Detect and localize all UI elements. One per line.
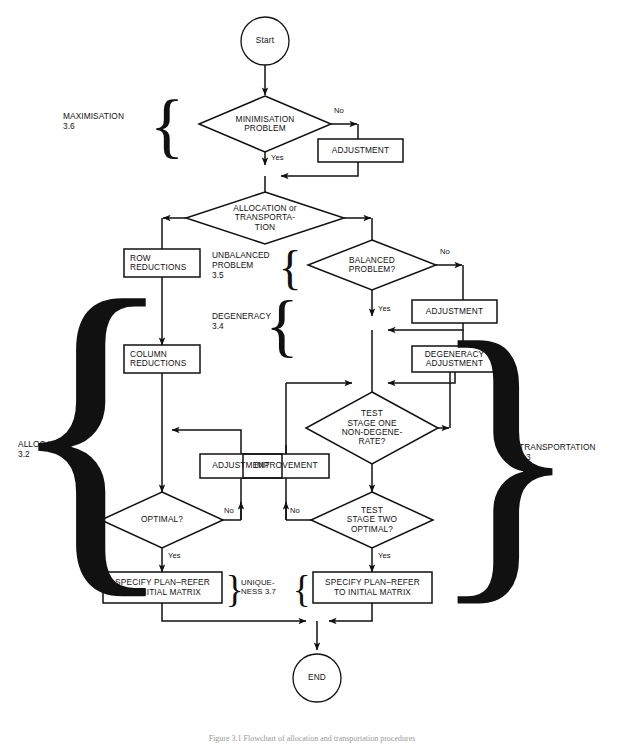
edge-label-stage-two-no: No — [290, 506, 300, 515]
flowchart-canvas: Start MINIMISATION PROBLEM ADJUSTMENT AL… — [0, 0, 624, 744]
adjustment-left-box — [200, 454, 282, 478]
section-label-uniqueness: UNIQUE- NESS 3.7 — [241, 578, 276, 596]
brace-unbalanced: { — [284, 243, 296, 293]
edge-adjustment-top-return — [281, 162, 358, 176]
adjustment-top-shape — [318, 139, 403, 162]
edge-right-plan-to-end — [329, 603, 372, 621]
alloc-or-transp-node-shape — [186, 192, 344, 244]
edge-label-stage-two-yes: Yes — [378, 551, 391, 560]
section-label-maximisation: MAXIMISATION 3.6 — [63, 112, 124, 132]
test-stage-two-shape — [311, 492, 433, 548]
balanced-node-shape — [308, 240, 436, 290]
brace-degeneracy: { — [276, 290, 288, 362]
section-label-unbalanced: UNBALANCED PROBLEM 3.5 — [212, 251, 270, 280]
end-node-shape — [293, 654, 341, 702]
brace-transportation: } — [497, 289, 513, 619]
figure-caption: Figure 3.1 Flowchart of allocation and t… — [0, 734, 624, 743]
brace-allocation: { — [84, 240, 100, 614]
test-stage-one-shape — [306, 392, 438, 464]
edge-label-minimisation-no: No — [334, 106, 344, 115]
edge-adjustment-left-out — [172, 430, 241, 454]
edge-label-balanced-yes: Yes — [378, 304, 391, 313]
brace-uniqueness-right: { — [296, 570, 307, 608]
edge-label-optimal-no: No — [224, 506, 234, 515]
start-node-shape — [241, 17, 289, 65]
edge-label-balanced-no: No — [440, 247, 450, 256]
brace-uniqueness-left: } — [229, 570, 240, 608]
improvement-shape — [243, 454, 329, 478]
minimisation-node-shape — [199, 96, 331, 152]
section-label-degeneracy: DEGENERACY 3.4 — [212, 312, 271, 332]
edge-label-minimisation-yes: Yes — [271, 153, 284, 162]
specify-plan-right-shape — [313, 572, 432, 603]
brace-maximisation: { — [160, 88, 174, 162]
